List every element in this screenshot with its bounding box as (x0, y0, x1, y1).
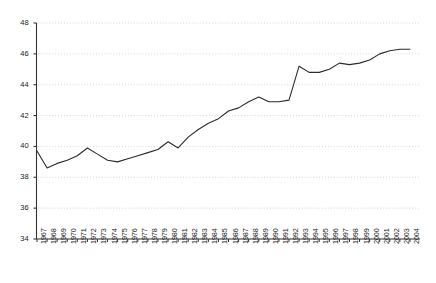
x-tick-label: 1967 (40, 228, 48, 244)
y-tick-label: 44 (9, 81, 29, 89)
x-tick-label: 2001 (383, 228, 391, 244)
x-tick-label: 1972 (90, 228, 98, 244)
x-tick-label: 1976 (131, 228, 139, 244)
x-tick-label: 2002 (393, 228, 401, 244)
x-tick-label: 1998 (352, 228, 360, 244)
x-tick-label: 1987 (242, 228, 250, 244)
x-tick-label: 2000 (373, 228, 381, 244)
x-tick-label: 1983 (201, 228, 209, 244)
x-tick-label: 1990 (272, 228, 280, 244)
x-tick-label: 1997 (342, 228, 350, 244)
x-tick-label: 1989 (262, 228, 270, 244)
x-tick-label: 1993 (302, 228, 310, 244)
x-tick-label: 1985 (221, 228, 229, 244)
x-tick-label: 1970 (70, 228, 78, 244)
y-tick-label: 40 (9, 142, 29, 150)
y-tick-label: 48 (9, 19, 29, 27)
x-tick-label: 1969 (60, 228, 68, 244)
y-tick-label: 42 (9, 112, 29, 120)
x-tick-label: 1977 (141, 228, 149, 244)
x-tick-label: 1982 (191, 228, 199, 244)
x-tick-label: 2003 (403, 228, 411, 244)
x-tick-label: 1988 (252, 228, 260, 244)
line-chart: 3436384042444648 19671968196919701971197… (0, 0, 436, 283)
x-tick-label: 1978 (151, 228, 159, 244)
y-tick-label: 36 (9, 204, 29, 212)
x-tick-label: 1973 (100, 228, 108, 244)
y-tick-label: 46 (9, 50, 29, 58)
y-tick-label: 34 (9, 235, 29, 243)
x-tick-label: 1968 (50, 228, 58, 244)
x-tick-label: 1980 (171, 228, 179, 244)
x-tick-label: 1999 (363, 228, 371, 244)
x-tick-label: 1992 (292, 228, 300, 244)
x-tick-label: 1984 (211, 228, 219, 244)
x-tick-label: 1981 (181, 228, 189, 244)
x-tick-label: 1975 (121, 228, 129, 244)
x-tick-label: 1996 (332, 228, 340, 244)
x-tick-label: 1979 (161, 228, 169, 244)
x-tick-label: 2004 (413, 228, 421, 244)
x-tick-label: 1994 (312, 228, 320, 244)
x-tick-label: 1974 (111, 228, 119, 244)
x-tick-label: 1995 (322, 228, 330, 244)
x-tick-label: 1971 (80, 228, 88, 244)
gridlines (38, 23, 420, 239)
y-tick-label: 38 (9, 173, 29, 181)
x-tick-label: 1986 (232, 228, 240, 244)
x-tick-label: 1991 (282, 228, 290, 244)
data-series-line (37, 49, 410, 168)
